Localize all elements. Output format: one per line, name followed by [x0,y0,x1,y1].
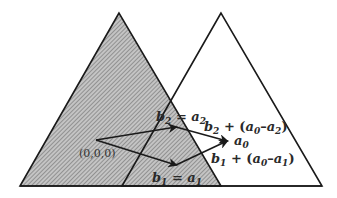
label-a0: a0 [234,133,249,150]
origin-label: (0,0,0) [79,147,116,160]
vector-diagram: (0,0,0) b2 = a2 b2 + (a0–a2) a0 b1 + (a0… [0,0,337,198]
label-b2-plus-a0-minus-a2: b2 + (a0–a2) [204,119,288,136]
label-b2-eq-a2: b2 = a2 [156,109,206,126]
left-shaded-triangle [20,13,221,186]
label-b1-eq-a1: b1 = a1 [152,170,202,187]
label-b1-plus-a0-minus-a1: b1 + (a0–a1) [211,151,295,168]
